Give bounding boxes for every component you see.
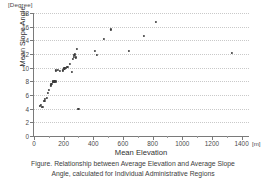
x-tick-minor	[227, 136, 228, 138]
y-tick-label: 8	[25, 78, 29, 85]
data-point	[50, 83, 52, 85]
data-point	[103, 38, 105, 40]
x-tick-minor	[138, 136, 139, 138]
x-tick-minor	[49, 136, 50, 138]
x-tick-label: 1400	[234, 140, 248, 147]
data-point	[143, 34, 145, 36]
caption-line-1: Figure. Relationship between Average Ele…	[8, 159, 258, 169]
caption-line-2: Angle, calculated for Individual Adminis…	[8, 169, 258, 179]
y-tick-label: 6	[25, 92, 29, 99]
y-tick-label: 2	[25, 119, 29, 126]
x-axis-title: Mean Elevation	[33, 148, 249, 157]
x-tick-label: 1200	[205, 140, 219, 147]
x-tick-label: 0	[32, 140, 36, 147]
data-point	[110, 28, 112, 30]
x-tick-minor	[78, 136, 79, 138]
data-point	[48, 89, 50, 91]
x-tick-label: 1000	[175, 140, 189, 147]
data-point	[55, 80, 57, 82]
data-point	[42, 106, 44, 108]
data-point	[43, 100, 45, 102]
data-point	[71, 71, 73, 73]
y-tick-label: 14	[22, 37, 29, 44]
data-point	[74, 53, 76, 55]
x-tick-label: 400	[88, 140, 99, 147]
data-point	[154, 20, 156, 22]
data-point	[231, 52, 233, 54]
x-axis-unit-label: [m]	[252, 140, 261, 147]
data-point	[59, 70, 61, 72]
data-point	[75, 56, 77, 58]
x-tick-label: 800	[147, 140, 158, 147]
x-tick-label: 600	[118, 140, 129, 147]
data-point	[76, 48, 78, 50]
data-point	[128, 49, 130, 51]
figure-caption: Figure. Relationship between Average Ele…	[8, 159, 258, 178]
scatter-figure: [Degree] Mean Slope Angle 02468101214161…	[0, 0, 266, 182]
data-point	[72, 58, 74, 60]
x-tick-minor	[108, 136, 109, 138]
data-point	[96, 54, 98, 56]
data-point	[94, 50, 96, 52]
y-tick-label: 12	[22, 51, 29, 58]
data-point	[66, 66, 68, 68]
plot-area: 0246810121416180200400600800100012001400	[33, 13, 249, 137]
data-points	[34, 13, 249, 136]
y-tick-label: 4	[25, 105, 29, 112]
y-tick-label: 0	[25, 133, 29, 140]
data-point	[77, 108, 79, 110]
y-tick-label: 18	[22, 10, 29, 17]
y-tick-label: 16	[22, 23, 29, 30]
x-tick-minor	[167, 136, 168, 138]
data-point	[47, 92, 49, 94]
data-point	[68, 62, 70, 64]
x-tick-label: 200	[58, 140, 69, 147]
data-point	[46, 97, 48, 99]
y-tick-label: 10	[22, 64, 29, 71]
x-tick-minor	[197, 136, 198, 138]
data-point	[62, 69, 64, 71]
